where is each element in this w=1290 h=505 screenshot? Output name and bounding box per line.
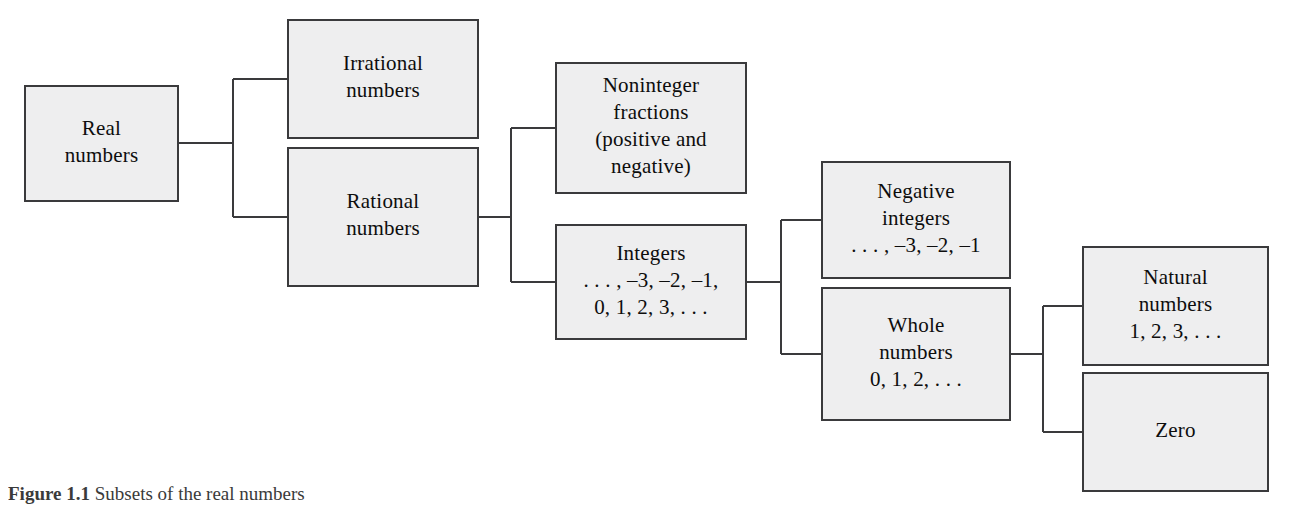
whole-numbers-box-label-line-1: Whole [888,313,945,337]
integers-box-label-line-2: . . . , –3, –2, –1, [583,268,718,292]
whole-numbers-box-label-line-2: numbers [879,340,953,364]
connector-whole-to-natural-zero [1010,306,1083,432]
natural-numbers-box[interactable]: Naturalnumbers1, 2, 3, . . . [1083,247,1268,365]
connector-rational-to-fractions-integers [478,128,556,282]
negative-integers-box-label-line-1: Negative [877,179,954,203]
real-numbers-box-label-line-2: numbers [65,143,139,167]
irrational-numbers-box[interactable]: Irrationalnumbers [288,20,478,138]
natural-numbers-box-label-line-2: numbers [1139,292,1213,316]
figure-caption-body: Subsets of the real numbers [95,483,305,504]
noninteger-fractions-box[interactable]: Nonintegerfractions(positive andnegative… [556,63,746,193]
noninteger-fractions-box-label-line-1: Noninteger [603,73,699,97]
zero-box-label-line-1: Zero [1155,418,1195,442]
real-numbers-box-label-line-1: Real [82,116,121,140]
figure-caption-label: Figure 1.1 [8,483,90,504]
noninteger-fractions-box-label-line-4: negative) [611,154,691,178]
real-numbers-box[interactable]: Realnumbers [25,86,178,201]
whole-numbers-box[interactable]: Wholenumbers0, 1, 2, . . . [822,288,1010,420]
connector-integers-to-negative-whole [746,220,822,354]
irrational-numbers-box-label-line-2: numbers [346,78,420,102]
natural-numbers-box-label-line-1: Natural [1143,265,1207,289]
negative-integers-box-label-line-2: integers [882,206,950,230]
integers-box-label-line-1: Integers [616,241,685,265]
zero-box[interactable]: Zero [1083,373,1268,491]
connector-real-to-rational-irrational [178,79,288,217]
whole-numbers-box-label-line-3: 0, 1, 2, . . . [870,367,962,391]
natural-numbers-box-label-line-3: 1, 2, 3, . . . [1129,319,1221,343]
integers-box-label-line-3: 0, 1, 2, 3, . . . [594,295,708,319]
negative-integers-box-label-line-3: . . . , –3, –2, –1 [851,233,981,257]
noninteger-fractions-box-label-line-3: (positive and [595,127,707,151]
figure-caption: Figure 1.1 Subsets of the real numbers [8,483,305,505]
irrational-numbers-box-label-line-1: Irrational [343,51,423,75]
rational-numbers-box-label-line-2: numbers [346,216,420,240]
integers-box[interactable]: Integers. . . , –3, –2, –1,0, 1, 2, 3, .… [556,225,746,339]
negative-integers-box[interactable]: Negativeintegers. . . , –3, –2, –1 [822,162,1010,278]
node-layer: RealnumbersIrrationalnumbersRationalnumb… [25,20,1268,491]
rational-numbers-box[interactable]: Rationalnumbers [288,148,478,286]
noninteger-fractions-box-label-line-2: fractions [613,100,688,124]
rational-numbers-box-label-line-1: Rational [347,189,420,213]
